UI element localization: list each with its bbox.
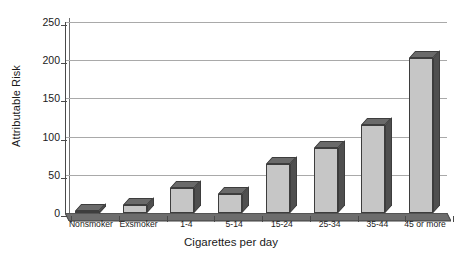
bar xyxy=(218,186,242,213)
bar-front-face xyxy=(314,148,338,213)
y-axis-tick-label: 150 xyxy=(42,93,60,104)
bar-side-face xyxy=(338,140,345,213)
bar xyxy=(266,156,290,213)
bar xyxy=(123,197,147,213)
bar xyxy=(75,203,99,214)
bar-front-face xyxy=(170,188,194,213)
bar-front-face xyxy=(123,205,147,213)
bar-side-face xyxy=(385,117,392,213)
x-axis-tick-labels: NonsmokerExsmoker1-45-1415-2425-3435-444… xyxy=(60,218,460,234)
bar-side-face xyxy=(290,156,297,213)
x-axis-tick-label: 45 or more xyxy=(404,218,446,230)
y-axis-tick-label: 50 xyxy=(48,170,60,181)
x-axis-tick-label: 25-34 xyxy=(319,218,341,230)
bar-front-face xyxy=(409,58,433,213)
x-axis-title: Cigarettes per day xyxy=(0,236,462,248)
x-axis-tick-label: Exsmoker xyxy=(120,218,158,230)
y-axis-tick-labels: 050100150200250 xyxy=(30,0,60,264)
y-axis-title: Attributable Risk xyxy=(2,0,30,212)
y-axis-tick-label: 100 xyxy=(42,131,60,142)
bar xyxy=(361,117,385,213)
x-axis-tick-label: 5-14 xyxy=(226,218,243,230)
bar xyxy=(314,140,338,213)
x-axis-tick-label: 15-24 xyxy=(271,218,293,230)
bar-chart: Attributable Risk 050100150200250 Nonsmo… xyxy=(0,0,462,264)
bar-side-face xyxy=(433,50,440,213)
bar-series xyxy=(65,22,447,213)
x-axis-tick-label: Nonsmoker xyxy=(69,218,113,230)
x-axis-tick-label: 1-4 xyxy=(180,218,192,230)
y-axis-tick-label: 200 xyxy=(42,55,60,66)
bar xyxy=(170,180,194,213)
x-axis-tick-label: 35-44 xyxy=(366,218,388,230)
bar-front-face xyxy=(361,125,385,213)
x-axis-title-label: Cigarettes per day xyxy=(184,236,278,248)
bar-front-face xyxy=(218,194,242,213)
y-axis-tick-label: 0 xyxy=(54,208,60,219)
y-axis-tick-label: 250 xyxy=(42,17,60,28)
bar-front-face xyxy=(266,164,290,213)
bar xyxy=(409,50,433,213)
y-axis-title-label: Attributable Risk xyxy=(10,65,22,147)
